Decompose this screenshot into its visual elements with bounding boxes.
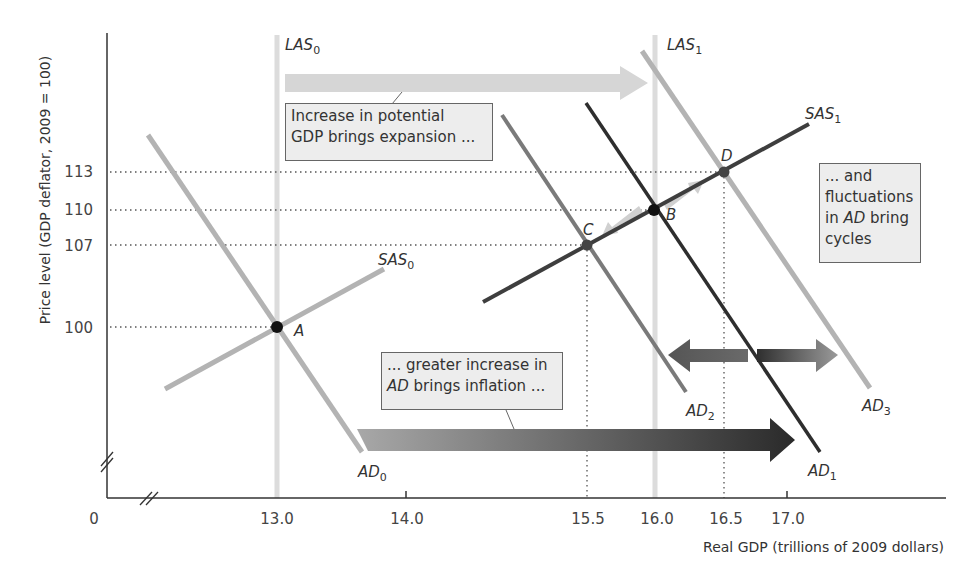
x-tick-14: 14.0: [390, 510, 423, 528]
inflation-callout-line1: ... greater increase in: [387, 355, 557, 376]
cycles-callout-line1: ... and: [825, 166, 915, 187]
point-d: [719, 167, 730, 178]
expansion-arrow: [285, 66, 648, 100]
x-tick-0: 0: [89, 510, 99, 528]
expansion-callout-line1: Increase in potential: [291, 106, 487, 127]
point-c: [582, 240, 593, 251]
cycles-callout-rest: bring: [865, 209, 909, 227]
x-axis-title: Real GDP (trillions of 2009 dollars): [703, 539, 944, 555]
inflation-callout: ... greater increase in AD brings inflat…: [381, 352, 563, 410]
cycles-callout-line3: in AD bring: [825, 208, 915, 229]
sas1-curve: [483, 124, 809, 302]
point-c-label: C: [583, 221, 594, 239]
y-tick-113: 113: [64, 163, 93, 181]
cycles-callout-line2: fluctuations: [825, 187, 915, 208]
x-tick-17: 17.0: [771, 510, 804, 528]
point-b: [648, 204, 660, 216]
cycles-right-arrow: [757, 339, 838, 372]
ad1-curve: [586, 103, 820, 452]
ad-term: AD: [843, 209, 865, 227]
point-d-label: D: [721, 147, 733, 165]
cycles-callout: ... and fluctuations in AD bring cycles: [819, 163, 921, 263]
ad1-label: AD1: [807, 462, 837, 483]
expansion-callout: Increase in potential GDP brings expansi…: [285, 103, 493, 161]
y-axis-title: Price level (GDP deflator, 2009 = 100): [37, 56, 53, 324]
point-a: [271, 321, 283, 333]
x-tick-16-5: 16.5: [709, 510, 742, 528]
horizontal-guides: [110, 172, 724, 327]
inflation-callout-line2: AD brings inflation ...: [387, 376, 557, 397]
inflation-callout-rest: brings inflation ...: [409, 377, 545, 395]
y-tick-107: 107: [64, 237, 93, 255]
inflation-leader: [506, 410, 514, 429]
ad0-curve: [148, 135, 362, 452]
as-ad-chart: A B C D LAS0 LAS1 SAS0 SAS1 AD0 AD1 AD2 …: [0, 0, 973, 576]
ad2-curve: [502, 115, 686, 392]
cycles-callout-line4: cycles: [825, 229, 915, 250]
x-tick-16: 16.0: [640, 510, 673, 528]
ad-term: AD: [387, 377, 409, 395]
x-tick-13: 13.0: [260, 510, 293, 528]
cycles-callout-pre: in: [825, 209, 843, 227]
las1-label: LAS1: [667, 36, 702, 57]
x-tick-15-5: 15.5: [571, 510, 604, 528]
y-tick-100: 100: [64, 319, 93, 337]
inflation-arrow: [357, 418, 795, 462]
point-a-label: A: [293, 322, 304, 340]
las0-label: LAS0: [285, 36, 320, 57]
ad2-label: AD2: [685, 402, 715, 423]
ad3-label: AD3: [861, 397, 891, 418]
point-b-label: B: [666, 206, 676, 224]
y-tick-110: 110: [64, 201, 93, 219]
sas0-label: SAS0: [378, 251, 414, 272]
expansion-callout-line2: GDP brings expansion ...: [291, 127, 487, 148]
sas1-label: SAS1: [805, 105, 841, 126]
cycles-left-arrow: [668, 339, 748, 372]
ad0-label: AD0: [357, 463, 387, 484]
